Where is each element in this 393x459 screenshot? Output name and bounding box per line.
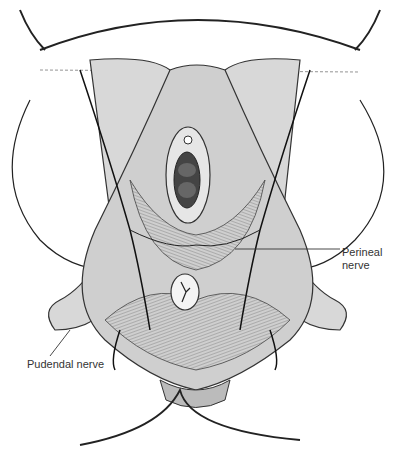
label-line: nerve	[342, 259, 382, 272]
label-pudendal-nerve: Pudendal nerve	[27, 358, 104, 371]
pudendal-leader	[50, 330, 70, 356]
label-line: Perineal	[342, 246, 382, 259]
anus	[171, 274, 199, 310]
label-perineal-nerve: Perineal nerve	[342, 246, 382, 272]
anatomy-illustration	[0, 0, 393, 459]
top-outline-curve	[40, 20, 360, 50]
